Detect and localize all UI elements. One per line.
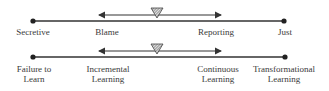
learning-right-endpoint-label: Transformational Learning — [253, 64, 315, 84]
learning-range-right-label: Continuous Learning — [197, 64, 239, 84]
position-marker-icon — [151, 8, 163, 18]
learning-scale — [30, 44, 287, 60]
right-endpoint-dot-icon — [281, 18, 286, 23]
left-endpoint-dot-icon — [30, 54, 35, 59]
culture-right-endpoint-label: Just — [278, 27, 292, 37]
position-marker-icon — [151, 44, 163, 54]
culture-range-left-label: Blame — [95, 27, 119, 37]
left-endpoint-dot-icon — [30, 18, 35, 23]
culture-scale — [30, 8, 286, 24]
learning-range-left-label: Incremental Learning — [87, 64, 130, 84]
learning-left-endpoint-label: Failure to Learn — [17, 64, 52, 84]
culture-left-endpoint-label: Secretive — [16, 27, 49, 37]
right-endpoint-dot-icon — [282, 54, 287, 59]
culture-range-right-label: Reporting — [198, 27, 234, 37]
